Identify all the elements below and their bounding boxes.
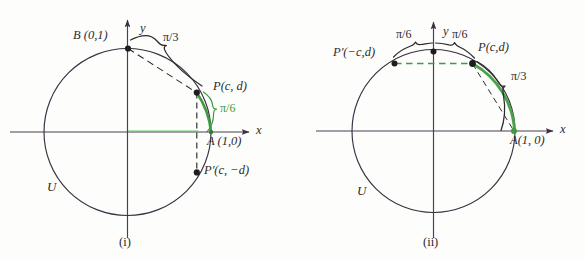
panel-ii-label-point-p: P(c,d) <box>478 41 509 54</box>
panel-ii-brace-pi-over-3 <box>477 62 505 131</box>
panel-ii-point-p <box>469 60 476 67</box>
panel-ii-point-pprime <box>392 61 398 67</box>
figure-unit-circle-reflections: B (0,1) y x π/3 P(c, d) π/6 A (1,0) P′(c… <box>0 0 585 261</box>
panel-ii-label-point-pprime: P′(−c,d) <box>333 46 375 59</box>
panel-ii-caption: (ii) <box>423 236 438 249</box>
panel-i-label-arc-pi-over-3: π/3 <box>163 31 178 43</box>
panel-ii-point-b <box>431 49 437 55</box>
panel-i-label-point-a: A (1,0) <box>207 135 242 148</box>
panel-i-label-point-p: P(c, d) <box>213 80 247 93</box>
panel-ii-label-y-axis: y <box>443 25 449 38</box>
panel-i-point-p <box>194 90 200 96</box>
panel-i-label-arc-pi-over-6: π/6 <box>220 102 235 114</box>
panel-ii-label-arc-pi-over-6-left: π/6 <box>396 28 411 40</box>
panel-i-caption: (i) <box>119 236 131 249</box>
panel-i-label-circle-u: U <box>47 180 56 193</box>
panel-ii-label-point-a: A(1, 0) <box>510 134 545 147</box>
panel-ii-label-arc-pi-over-3: π/3 <box>511 70 526 82</box>
panel-i-label-point-pprime: P′(c, −d) <box>204 164 249 177</box>
panel-i-point-pprime <box>194 169 200 175</box>
panel-i-label-x-axis: x <box>256 124 262 137</box>
panel-ii-label-arc-pi-over-6-right: π/6 <box>452 28 467 40</box>
panel-i-label-point-b: B (0,1) <box>73 29 108 42</box>
panel-ii-label-x-axis: x <box>560 123 566 136</box>
panel-i <box>10 20 249 238</box>
panel-i-chord-b-to-p <box>128 49 197 93</box>
panel-ii-label-circle-u: U <box>357 184 366 197</box>
panel-i-point-b <box>125 45 131 51</box>
panel-i-label-y-axis: y <box>140 22 146 35</box>
